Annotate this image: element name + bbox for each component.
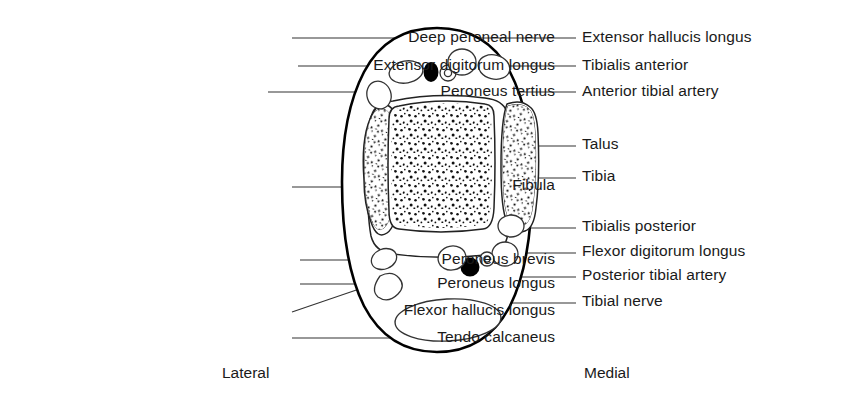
label-peroneus-tertius: Peroneus tertius	[441, 83, 555, 99]
label-deep-peroneal-nerve: Deep peroneal nerve	[408, 29, 555, 45]
label-tibialis-posterior: Tibialis posterior	[582, 218, 696, 234]
label-extensor-digitorum-longus: Extensor digitorum longus	[373, 57, 555, 73]
label-flexor-hallucis-longus: Flexor hallucis longus	[404, 302, 555, 318]
label-extensor-hallucis-longus: Extensor hallucis longus	[582, 29, 752, 45]
label-peroneus-longus: Peroneus longus	[437, 275, 555, 291]
label-fibula: Fibula	[512, 177, 555, 193]
tibialis-posterior-tendon	[498, 215, 524, 237]
label-tibia: Tibia	[582, 168, 616, 184]
talus-bone	[388, 100, 500, 235]
tibia-bone	[500, 98, 545, 232]
label-posterior-tibial-artery: Posterior tibial artery	[582, 267, 726, 283]
label-peroneus-brevis: Peroneus brevis	[441, 251, 555, 267]
label-talus: Talus	[582, 136, 619, 152]
label-tibial-nerve: Tibial nerve	[582, 293, 663, 309]
caption-medial: Medial	[584, 364, 630, 382]
label-anterior-tibial-artery: Anterior tibial artery	[582, 83, 719, 99]
anatomical-figure: Deep peroneal nerve Extensor digitorum l…	[0, 0, 849, 410]
label-tibialis-anterior: Tibialis anterior	[582, 57, 688, 73]
label-flexor-digitorum-longus: Flexor digitorum longus	[582, 243, 745, 259]
label-tendo-calcaneus: Tendo calcaneus	[437, 329, 555, 345]
caption-lateral: Lateral	[222, 364, 269, 382]
